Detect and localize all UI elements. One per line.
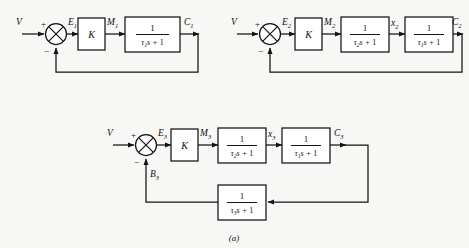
tf-numerator-3-1: 1 [240,134,245,144]
input-label-1: V [16,17,23,27]
sum-plus-sign-3: + [131,130,136,140]
tf-denominator-2-2: τ1s+1 [418,38,440,48]
error-label-3: E3 [157,128,168,140]
feedback-tf-denominator-3: τ3s+1 [231,206,253,216]
block-diagram-figure: V + − E1 K M1 1 τ1s+1 C1 V + − E2 K M2 1… [0,0,469,248]
gain-output-label-3: M3 [199,128,212,140]
error-label-2: E2 [281,17,292,29]
output-label-2: C2 [452,17,462,29]
sum-plus-sign-2: + [255,19,260,29]
sum-minus-sign-1: − [44,46,49,56]
sum-minus-sign-2: − [258,46,263,56]
input-label-3: V [107,128,114,138]
intermediate-label-2: x2 [390,18,399,30]
output-label-3: C3 [334,128,344,140]
input-label-2: V [231,17,238,27]
tf-numerator-2-1: 1 [363,23,368,33]
gain-label-1: K [87,29,96,40]
tf-numerator-3-2: 1 [304,134,309,144]
tf-denominator-2-1: τ2s+1 [354,38,376,48]
gain-output-label-1: M1 [106,17,118,29]
tf-denominator-3-1: τ2s+1 [231,149,253,159]
gain-label-2: K [304,29,313,40]
tf-numerator-2-2: 1 [427,23,432,33]
feedback-signal-label-3: B3 [150,169,160,181]
sum-minus-sign-3: − [134,157,139,167]
diagram-text-layer: V + − E1 K M1 1 τ1s+1 C1 V + − E2 K M2 1… [0,0,469,248]
output-label-1: C1 [184,17,194,29]
figure-caption: (a) [229,233,240,243]
sum-plus-sign-1: + [41,19,46,29]
tf-denominator-1-1: τ1s+1 [141,38,163,48]
feedback-tf-numerator-3: 1 [240,191,245,201]
tf-denominator-3-2: τ1s+1 [295,149,317,159]
tf-numerator-1-1: 1 [150,23,155,33]
gain-output-label-2: M2 [323,17,336,29]
error-label-1: E1 [67,17,77,29]
gain-label-3: K [180,140,189,151]
intermediate-label-3: x3 [267,129,276,141]
